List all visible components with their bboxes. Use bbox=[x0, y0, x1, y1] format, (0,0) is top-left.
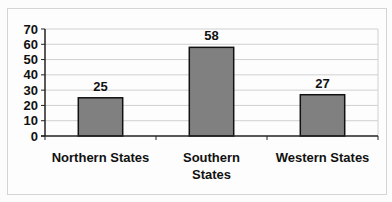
bars bbox=[78, 47, 344, 136]
bar-southern-states bbox=[189, 47, 233, 136]
data-label: 58 bbox=[204, 28, 218, 43]
x-tick-label: Northern States bbox=[52, 150, 150, 165]
y-tick-label: 30 bbox=[24, 83, 38, 98]
y-tick-label: 20 bbox=[24, 98, 38, 113]
data-label: 25 bbox=[93, 79, 107, 94]
x-axis-labels: Northern StatesSouthernStatesWestern Sta… bbox=[52, 150, 370, 182]
y-tick-label: 0 bbox=[31, 129, 38, 144]
y-tick-label: 10 bbox=[24, 113, 38, 128]
y-axis-ticks: 010203040506070 bbox=[24, 22, 45, 144]
y-tick-label: 70 bbox=[24, 22, 38, 37]
bar-chart: 010203040506070 Northern StatesSouthernS… bbox=[0, 0, 392, 202]
x-tick-label: Western States bbox=[276, 150, 370, 165]
bar-western-states bbox=[300, 95, 344, 136]
x-tick-label: States bbox=[192, 167, 231, 182]
bar-northern-states bbox=[78, 98, 122, 136]
x-tick-label: Southern bbox=[183, 150, 240, 165]
data-label: 27 bbox=[315, 76, 329, 91]
y-tick-label: 60 bbox=[24, 37, 38, 52]
y-tick-label: 40 bbox=[24, 67, 38, 82]
y-tick-label: 50 bbox=[24, 52, 38, 67]
